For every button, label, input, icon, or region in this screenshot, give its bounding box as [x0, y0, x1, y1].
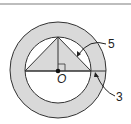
label-5: 5 — [108, 37, 115, 51]
center-label: O — [57, 72, 66, 86]
geometry-diagram: O 5 3 — [0, 0, 131, 124]
label-3: 3 — [116, 90, 123, 104]
